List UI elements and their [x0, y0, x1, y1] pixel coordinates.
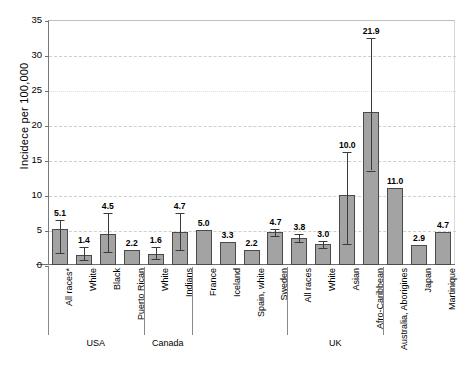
error-bar-cap-lower	[367, 171, 376, 172]
group-separator	[192, 267, 193, 335]
y-axis-label: Incidece per 100,000	[18, 0, 30, 236]
error-bar-cap-lower	[55, 253, 64, 254]
y-tick-label-0: 0	[12, 259, 42, 270]
error-bar-cap-lower	[295, 242, 304, 243]
group-separator	[48, 267, 49, 335]
bar-value-label: 4.7	[174, 201, 186, 211]
x-category-label: Martinique	[447, 268, 457, 310]
bar-value-label: 10.0	[339, 140, 356, 150]
gridline-25	[49, 91, 456, 92]
y-tick-mark-25	[45, 91, 49, 92]
bar	[244, 250, 260, 265]
x-category-label: White	[327, 268, 337, 291]
error-bar-cap-lower	[343, 244, 352, 245]
x-category-label: Black	[112, 268, 122, 290]
error-bar-line	[156, 247, 157, 259]
group-separator	[144, 267, 145, 335]
x-category-label: Japan	[423, 268, 433, 293]
x-category-label: All races*	[64, 268, 74, 306]
bar-value-label: 11.0	[387, 176, 403, 186]
y-tick-label-5: 5	[12, 224, 42, 235]
error-bar-line	[180, 213, 181, 250]
x-category-label: All races	[303, 268, 313, 303]
bar-value-label: 5.1	[54, 208, 66, 218]
error-bar-cap-upper	[175, 213, 184, 214]
error-bar-cap-lower	[319, 248, 328, 249]
x-category-label: Spain, white	[256, 268, 266, 317]
bar-value-label: 2.2	[126, 238, 138, 248]
error-bar-line	[84, 247, 85, 260]
bar	[435, 232, 451, 265]
y-tick-label-30: 30	[12, 49, 42, 60]
error-bar-cap-upper	[295, 234, 304, 235]
error-bar-cap-upper	[271, 229, 280, 230]
group-label-uk: UK	[329, 338, 342, 348]
y-tick-mark-5	[45, 231, 49, 232]
error-bar-cap-lower	[103, 252, 112, 253]
group-label-canada: Canada	[152, 338, 184, 348]
y-tick-label-20: 20	[12, 119, 42, 130]
group-separator	[287, 267, 288, 335]
error-bar-cap-lower	[79, 260, 88, 261]
bar-value-label: 2.2	[246, 238, 258, 248]
x-category-label: Iceland	[232, 268, 242, 297]
bar	[387, 188, 403, 265]
gridline-20	[49, 126, 456, 127]
x-category-label: White	[160, 268, 170, 291]
error-bar-cap-upper	[103, 213, 112, 214]
bar-value-label: 1.6	[150, 235, 162, 245]
group-separator	[383, 267, 384, 335]
chart-figure: Incidece per 100,000 051015202530355.1Al…	[0, 0, 467, 370]
bar	[220, 242, 236, 265]
bar-value-label: 4.5	[102, 201, 114, 211]
bar	[124, 250, 140, 265]
error-bar-line	[323, 241, 324, 248]
bar-value-label: 3.8	[293, 222, 305, 232]
bar-value-label: 21.9	[363, 26, 380, 36]
error-bar-cap-lower	[175, 250, 184, 251]
bar	[267, 232, 283, 265]
error-bar-cap-upper	[79, 247, 88, 248]
error-bar-cap-upper	[319, 241, 328, 242]
group-label-usa: USA	[87, 338, 106, 348]
y-tick-mark-30	[45, 56, 49, 57]
error-bar-line	[275, 229, 276, 236]
bar	[411, 245, 427, 265]
y-tick-mark-15	[45, 161, 49, 162]
x-category-label: Asian	[351, 268, 361, 291]
bar-value-label: 1.4	[78, 235, 90, 245]
error-bar-line	[60, 220, 61, 254]
x-category-label: France	[208, 268, 218, 296]
error-bar-line	[299, 234, 300, 242]
error-bar-line	[108, 213, 109, 252]
bar-value-label: 3.3	[222, 230, 234, 240]
error-bar-cap-upper	[55, 220, 64, 221]
y-tick-mark-20	[45, 126, 49, 127]
bar	[196, 230, 212, 265]
error-bar-cap-upper	[343, 152, 352, 153]
y-tick-label-35: 35	[12, 14, 42, 25]
y-tick-label-25: 25	[12, 84, 42, 95]
error-bar-line	[371, 38, 372, 170]
bar-value-label: 3.0	[317, 229, 329, 239]
gridline-30	[49, 56, 456, 57]
bar-value-label: 5.0	[198, 218, 210, 228]
error-bar-cap-upper	[151, 247, 160, 248]
y-tick-label-10: 10	[12, 189, 42, 200]
gridline-15	[49, 161, 456, 162]
y-tick-mark-35	[45, 21, 49, 22]
y-tick-mark-10	[45, 196, 49, 197]
bar-value-label: 2.9	[413, 233, 425, 243]
x-category-label: Australia, Aborigines	[399, 268, 409, 350]
bar-value-label: 4.7	[437, 220, 449, 230]
bar-value-label: 4.7	[269, 217, 281, 227]
x-category-label: White	[88, 268, 98, 291]
error-bar-cap-lower	[271, 236, 280, 237]
error-bar-line	[347, 152, 348, 244]
y-tick-label-15: 15	[12, 154, 42, 165]
error-bar-cap-upper	[367, 38, 376, 39]
error-bar-cap-lower	[151, 259, 160, 260]
